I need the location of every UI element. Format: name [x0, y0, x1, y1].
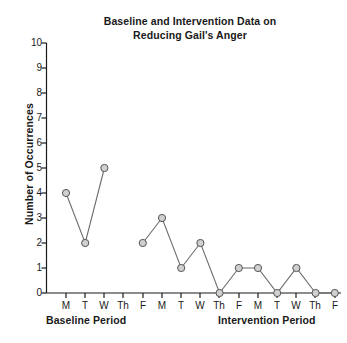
y-axis-ticks [42, 43, 47, 293]
data-point-12[interactable] [293, 264, 300, 271]
x-axis-ticks [66, 293, 335, 298]
data-point-14[interactable] [331, 289, 338, 296]
series-line-segment-1 [143, 218, 335, 293]
data-point-0[interactable] [62, 189, 69, 196]
data-point-10[interactable] [254, 264, 261, 271]
data-point-4[interactable] [139, 239, 146, 246]
data-point-8[interactable] [216, 289, 223, 296]
data-point-1[interactable] [82, 239, 89, 246]
plot-area [0, 0, 347, 343]
chart-container: Baseline and Intervention Data on Reduci… [0, 0, 347, 343]
series-line-segment-0 [66, 168, 104, 243]
data-point-7[interactable] [197, 239, 204, 246]
data-point-13[interactable] [312, 289, 319, 296]
data-series-layer [62, 164, 338, 296]
data-point-5[interactable] [158, 214, 165, 221]
data-point-9[interactable] [235, 264, 242, 271]
data-point-6[interactable] [178, 264, 185, 271]
data-point-11[interactable] [274, 289, 281, 296]
data-point-2[interactable] [101, 164, 108, 171]
